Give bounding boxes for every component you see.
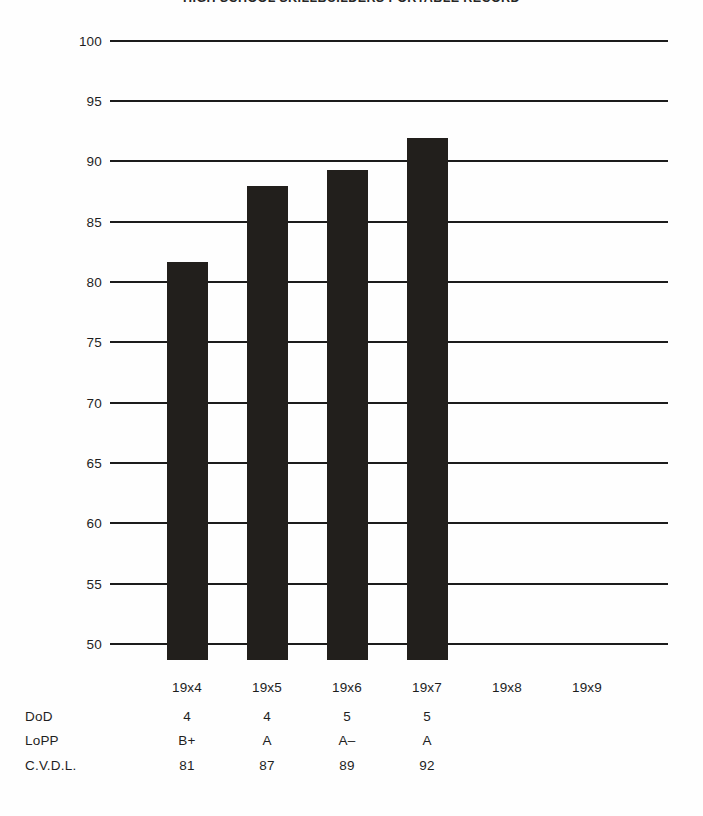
y-tick-65: 65 — [56, 456, 102, 471]
cell-cvdl-19x7: 92 — [387, 758, 467, 773]
y-tick-80: 80 — [56, 275, 102, 290]
gridline-85 — [110, 221, 668, 223]
cell-dod-19x7: 5 — [387, 709, 467, 724]
cell-cvdl-19x5: 87 — [227, 758, 307, 773]
bar-19x6 — [327, 170, 368, 660]
cell-lopp-19x7: A — [387, 733, 467, 748]
x-label-19x8: 19x8 — [467, 680, 547, 695]
data-table: 19x4 19x5 19x6 19x7 19x8 19x9 DoD 4 4 5 … — [0, 676, 703, 796]
cell-cvdl-19x6: 89 — [307, 758, 387, 773]
bar-19x4 — [167, 262, 208, 660]
cell-dod-19x5: 4 — [227, 709, 307, 724]
gridline-95 — [110, 100, 668, 102]
row-label-dod: DoD — [25, 709, 53, 724]
y-tick-55: 55 — [56, 577, 102, 592]
row-label-lopp: LoPP — [25, 733, 59, 748]
x-label-19x6: 19x6 — [307, 680, 387, 695]
cell-lopp-19x5: A — [227, 733, 307, 748]
y-tick-95: 95 — [56, 94, 102, 109]
gridline-90 — [110, 160, 668, 162]
row-label-cvdl: C.V.D.L. — [25, 758, 76, 773]
y-tick-70: 70 — [56, 396, 102, 411]
x-label-19x9: 19x9 — [547, 680, 627, 695]
cell-dod-19x4: 4 — [147, 709, 227, 724]
plot-area: 100 95 90 85 80 75 70 65 60 55 50 — [0, 0, 703, 680]
y-tick-60: 60 — [56, 516, 102, 531]
cell-lopp-19x4: B+ — [147, 733, 227, 748]
bar-19x7 — [407, 138, 448, 660]
y-tick-75: 75 — [56, 335, 102, 350]
x-label-19x5: 19x5 — [227, 680, 307, 695]
y-tick-50: 50 — [56, 637, 102, 652]
cell-lopp-19x6: A– — [307, 733, 387, 748]
bar-19x5 — [247, 186, 288, 660]
y-tick-85: 85 — [56, 215, 102, 230]
cell-dod-19x6: 5 — [307, 709, 387, 724]
x-label-19x7: 19x7 — [387, 680, 467, 695]
cell-cvdl-19x4: 81 — [147, 758, 227, 773]
chart-page: HIGH SCHOOL SKILLBUILDERS PORTABLE RECOR… — [0, 0, 703, 816]
gridline-100 — [110, 40, 668, 42]
x-label-19x4: 19x4 — [147, 680, 227, 695]
y-tick-90: 90 — [56, 154, 102, 169]
y-tick-100: 100 — [56, 34, 102, 49]
